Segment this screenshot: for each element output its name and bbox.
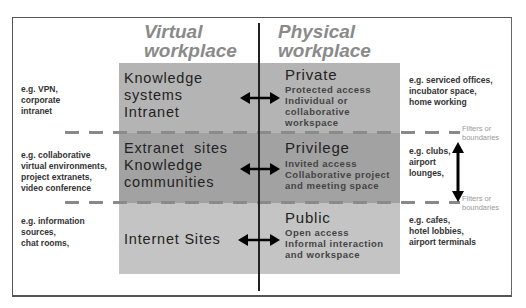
- physical-title-privilege: Privilege: [285, 140, 350, 156]
- desc-line: and workspace: [285, 249, 384, 260]
- virtual-header-line-2: workplace: [144, 41, 237, 60]
- desc-line: and meeting space: [285, 180, 390, 191]
- desc-line: Informal interaction: [285, 238, 384, 249]
- left-example-public: e.g. information sources, chat rooms,: [21, 216, 85, 249]
- double-arrow-icon: [240, 162, 280, 176]
- physical-header: Physical workplace: [278, 22, 371, 60]
- label-line: Extranet sites: [124, 140, 228, 157]
- desc-line: collaborative: [285, 106, 371, 117]
- boundary-line-lower: [65, 201, 460, 204]
- example-line: chat rooms,: [21, 238, 85, 249]
- left-example-privilege: e.g. collaborative virtual environments,…: [21, 150, 107, 194]
- example-line: intranet: [21, 106, 60, 117]
- example-line: project extranets,: [21, 172, 107, 183]
- virtual-header-line-1: Virtual: [144, 22, 237, 41]
- label-line: Internet Sites: [124, 231, 221, 248]
- physical-desc-private: Protected access Individual or collabora…: [285, 84, 371, 128]
- boundary-line-upper: [65, 131, 460, 134]
- virtual-label-private: Knowledge systems Intranet: [124, 70, 203, 121]
- physical-title-private: Private: [285, 67, 337, 83]
- filters-label-line: boundaries: [462, 203, 499, 212]
- desc-line: workspace: [285, 117, 371, 128]
- example-line: corporate: [21, 95, 60, 106]
- example-line: e.g. clubs,: [409, 146, 451, 157]
- left-example-private: e.g. VPN, corporate intranet: [21, 84, 60, 117]
- physical-header-line-2: workplace: [278, 41, 371, 60]
- example-line: lounges,: [409, 168, 451, 179]
- right-example-private: e.g. serviced offices, incubator space, …: [409, 75, 493, 108]
- right-example-public: e.g. cafes, hotel lobbies, airport termi…: [409, 215, 476, 248]
- double-arrow-icon: [238, 233, 280, 247]
- example-line: e.g. collaborative: [21, 150, 107, 161]
- filters-label-line: Filters or: [462, 124, 499, 133]
- desc-line: Collaborative project: [285, 169, 390, 180]
- desc-line: Invited access: [285, 158, 390, 169]
- example-line: hotel lobbies,: [409, 226, 476, 237]
- vertical-divider: [258, 23, 260, 291]
- desc-line: Open access: [285, 227, 384, 238]
- example-line: airport: [409, 157, 451, 168]
- label-line: communities: [124, 174, 228, 191]
- example-line: sources,: [21, 227, 85, 238]
- vertical-double-arrow-icon: [451, 142, 465, 202]
- desc-line: Individual or: [285, 95, 371, 106]
- example-line: e.g. serviced offices,: [409, 75, 493, 86]
- label-line: Knowledge: [124, 157, 228, 174]
- label-line: Knowledge: [124, 70, 203, 87]
- physical-header-line-1: Physical: [278, 22, 371, 41]
- example-line: home working: [409, 97, 493, 108]
- desc-line: Protected access: [285, 84, 371, 95]
- virtual-label-privilege: Extranet sites Knowledge communities: [124, 140, 228, 191]
- right-example-privilege: e.g. clubs, airport lounges,: [409, 146, 451, 179]
- filters-label-line: boundaries: [462, 133, 499, 142]
- filters-label-upper: Filters or boundaries: [462, 124, 499, 142]
- physical-desc-privilege: Invited access Collaborative project and…: [285, 158, 390, 191]
- example-line: e.g. VPN,: [21, 84, 60, 95]
- example-line: e.g. information: [21, 216, 85, 227]
- label-line: systems: [124, 87, 203, 104]
- label-line: Intranet: [124, 104, 203, 121]
- example-line: airport terminals: [409, 237, 476, 248]
- example-line: incubator space,: [409, 86, 493, 97]
- virtual-label-public: Internet Sites: [124, 231, 221, 248]
- virtual-header: Virtual workplace: [144, 22, 237, 60]
- filters-label-line: Filters or: [462, 194, 499, 203]
- physical-title-public: Public: [285, 210, 331, 226]
- example-line: virtual environments,: [21, 161, 107, 172]
- physical-desc-public: Open access Informal interaction and wor…: [285, 227, 384, 260]
- example-line: video conference: [21, 183, 107, 194]
- filters-label-lower: Filters or boundaries: [462, 194, 499, 212]
- example-line: e.g. cafes,: [409, 215, 476, 226]
- double-arrow-icon: [240, 91, 280, 105]
